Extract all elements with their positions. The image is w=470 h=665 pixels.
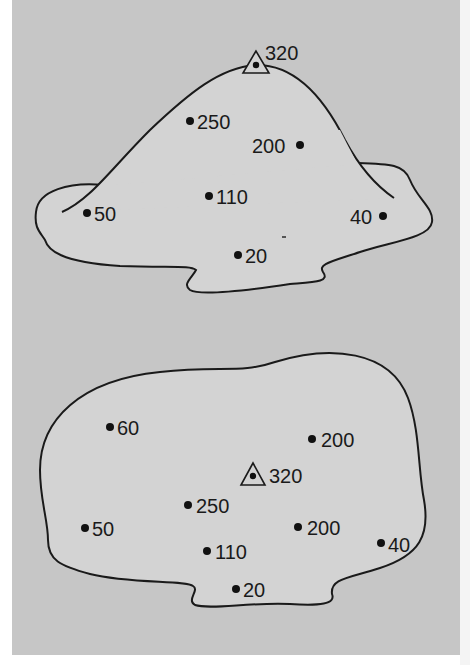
svg-text:20: 20: [245, 245, 267, 267]
summit-dot: [253, 62, 259, 68]
plan-view-outline: [40, 353, 426, 607]
svg-text:40: 40: [388, 534, 410, 556]
svg-text:50: 50: [94, 203, 116, 225]
svg-text:250: 250: [197, 111, 230, 133]
svg-text:20: 20: [243, 579, 265, 601]
summit-dot: [250, 473, 256, 479]
speck: [282, 236, 286, 238]
side-view: 320 250 200 110 50 40 20: [36, 42, 433, 292]
plan-view: 320 60 200 250 50 200 110 40: [40, 353, 426, 607]
svg-text:40: 40: [350, 206, 372, 228]
svg-text:60: 60: [117, 417, 139, 439]
topographic-diagram: 320 250 200 110 50 40 20: [0, 0, 470, 665]
svg-text:200: 200: [321, 429, 354, 451]
summit-label: 320: [265, 42, 298, 64]
svg-text:110: 110: [215, 541, 247, 563]
svg-text:200: 200: [252, 135, 285, 157]
svg-text:250: 250: [196, 495, 229, 517]
svg-text:50: 50: [92, 518, 114, 540]
svg-text:200: 200: [307, 517, 340, 539]
summit-label: 320: [269, 465, 302, 487]
svg-text:110: 110: [216, 186, 248, 208]
